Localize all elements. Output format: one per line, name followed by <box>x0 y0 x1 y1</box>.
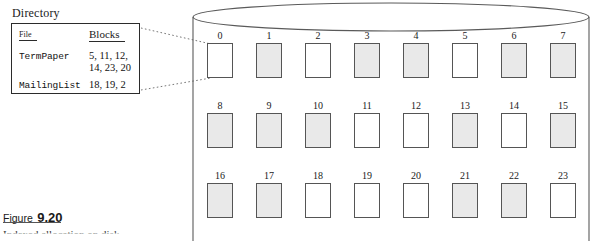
disk-block-20[interactable] <box>403 183 429 218</box>
disk-block-6[interactable] <box>501 43 527 78</box>
block-number-label: 9 <box>256 100 282 111</box>
block-number-label: 7 <box>550 30 576 41</box>
disk-block-4[interactable] <box>403 43 429 78</box>
figure-caption: Figure 9.20 <box>3 208 63 226</box>
caption-underline <box>3 222 61 223</box>
disk-block-13[interactable] <box>452 113 478 148</box>
block-number-label: 10 <box>305 100 331 111</box>
block-number-label: 5 <box>452 30 478 41</box>
disk-block-15[interactable] <box>550 113 576 148</box>
block-number-label: 3 <box>354 30 380 41</box>
disk-block-12[interactable] <box>403 113 429 148</box>
disk-block-17[interactable] <box>256 183 282 218</box>
block-number-label: 0 <box>207 30 233 41</box>
block-number-label: 11 <box>354 100 380 111</box>
block-number-label: 15 <box>550 100 576 111</box>
disk-block-1[interactable] <box>256 43 282 78</box>
block-number-label: 4 <box>403 30 429 41</box>
figure-indexed-allocation: Directory File Blocks TermPaper 5, 11, 1… <box>0 0 597 241</box>
block-number-label: 12 <box>403 100 429 111</box>
disk-block-19[interactable] <box>354 183 380 218</box>
block-number-label: 6 <box>501 30 527 41</box>
disk-block-10[interactable] <box>305 113 331 148</box>
block-number-label: 16 <box>207 170 233 181</box>
disk-block-7[interactable] <box>550 43 576 78</box>
block-number-label: 22 <box>501 170 527 181</box>
block-number-label: 13 <box>452 100 478 111</box>
block-number-label: 8 <box>207 100 233 111</box>
disk-block-9[interactable] <box>256 113 282 148</box>
disk-block-5[interactable] <box>452 43 478 78</box>
block-number-label: 1 <box>256 30 282 41</box>
block-number-label: 21 <box>452 170 478 181</box>
block-number-label: 18 <box>305 170 331 181</box>
disk-block-8[interactable] <box>207 113 233 148</box>
disk-block-14[interactable] <box>501 113 527 148</box>
block-number-label: 20 <box>403 170 429 181</box>
disk-block-22[interactable] <box>501 183 527 218</box>
block-number-label: 17 <box>256 170 282 181</box>
block-number-label: 23 <box>550 170 576 181</box>
disk-block-grid: 0 1 2 3 4 5 6 7 8 9 10 11 12 13 14 15 16 <box>0 0 597 241</box>
disk-block-16[interactable] <box>207 183 233 218</box>
disk-block-0[interactable] <box>207 43 233 78</box>
disk-block-21[interactable] <box>452 183 478 218</box>
disk-block-11[interactable] <box>354 113 380 148</box>
disk-block-18[interactable] <box>305 183 331 218</box>
disk-block-23[interactable] <box>550 183 576 218</box>
block-number-label: 19 <box>354 170 380 181</box>
block-number-label: 2 <box>305 30 331 41</box>
block-number-label: 14 <box>501 100 527 111</box>
disk-block-2[interactable] <box>305 43 331 78</box>
disk-block-3[interactable] <box>354 43 380 78</box>
